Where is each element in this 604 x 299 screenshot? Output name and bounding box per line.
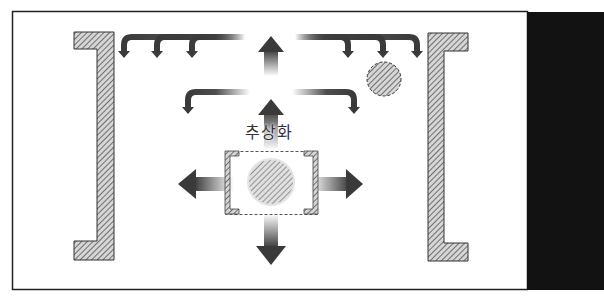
abstraction-diagram: 추상화 [0, 0, 604, 299]
center-hatched-circle [248, 159, 294, 205]
abstraction-label: 추상화 [245, 119, 293, 143]
small-hatched-circle [367, 62, 401, 96]
